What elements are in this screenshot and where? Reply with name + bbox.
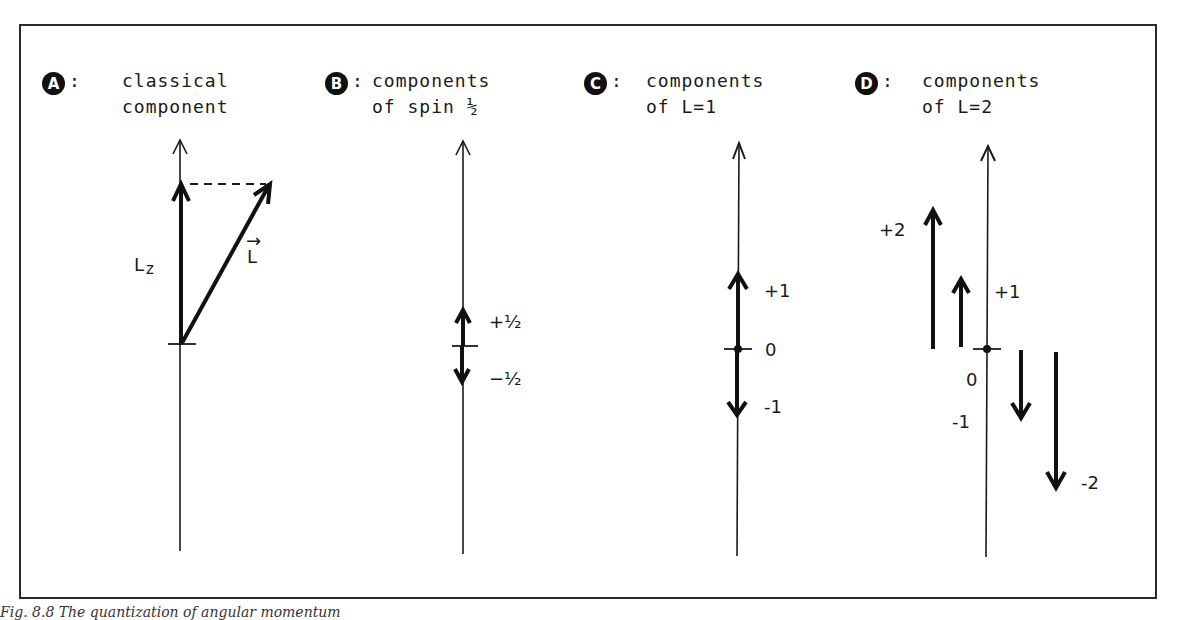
panel-b-minus-half-label: −½ <box>489 368 522 389</box>
panel-d-plus-one-label: +1 <box>994 281 1021 302</box>
panel-b-plus-half-label: +½ <box>489 311 522 332</box>
panel-a-l-vector-arrow-icon: → <box>246 230 261 251</box>
panel-a-lz-label: Lz <box>134 254 154 278</box>
figure-caption: Fig. 8.8 The quantization of angular mom… <box>0 604 341 620</box>
panel-d-origin-dot <box>983 345 991 353</box>
panel-c-minus-one-label: -1 <box>764 396 782 417</box>
panel-d-plus-two-label: +2 <box>879 219 906 240</box>
panel-c-plus-one-label: +1 <box>764 280 791 301</box>
panel-c-zero-label: 0 <box>765 339 776 360</box>
panel-c-diagram: +1 0 -1 <box>724 143 791 556</box>
panel-b-diagram: +½ −½ <box>452 141 522 554</box>
panel-d-zero-label: 0 <box>966 369 977 390</box>
panel-a-diagram: Lz L → <box>134 140 270 551</box>
panel-d-minus-two-label: -2 <box>1081 472 1099 493</box>
panel-d-diagram: +2 +1 0 -1 -2 <box>879 146 1099 557</box>
panel-d-minus-one-label: -1 <box>952 411 970 432</box>
panel-c-origin-dot <box>734 345 742 353</box>
